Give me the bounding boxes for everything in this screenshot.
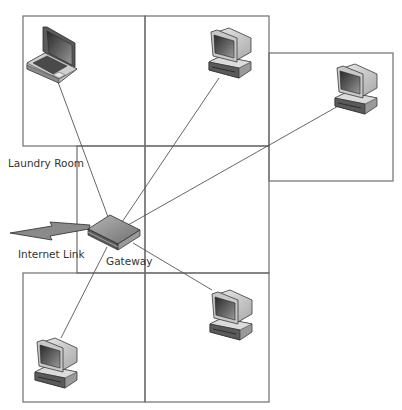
desktop-pc-right-icon <box>335 64 377 114</box>
room-right <box>269 53 393 181</box>
internet-link-lightning-icon <box>10 222 90 240</box>
network-floor-plan <box>0 0 402 410</box>
network-links <box>58 78 340 338</box>
room-bottom-right <box>145 273 269 402</box>
room-middle-right <box>145 146 269 273</box>
link-gateway-laptop <box>58 82 108 217</box>
link-gateway-pc-right <box>128 105 340 225</box>
gateway-router-icon <box>88 215 140 250</box>
laundry-room-label: Laundry Room <box>8 157 84 169</box>
room-top-left <box>23 16 145 146</box>
gateway-label: Gateway <box>106 255 152 267</box>
room-top-center <box>145 16 269 146</box>
desktop-pc-bottom-left-icon <box>35 338 77 388</box>
internet-link-label: Internet Link <box>18 248 85 260</box>
desktop-pc-bottom-right-icon <box>210 290 252 340</box>
desktop-pc-top-center-icon <box>209 28 251 78</box>
link-gateway-pc-top-center <box>122 78 219 222</box>
link-gateway-pc-bottom-left <box>61 247 107 338</box>
laptop-icon <box>27 27 77 83</box>
room-laundry <box>77 146 145 273</box>
